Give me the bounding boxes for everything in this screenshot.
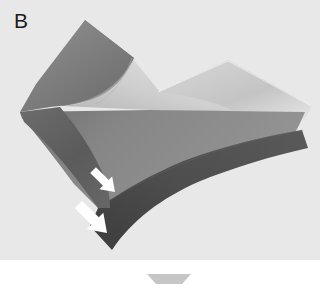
panel-label: B — [14, 10, 29, 31]
annotation-arrow-layer — [0, 0, 320, 260]
scale-marker-container — [0, 260, 320, 293]
scale-marker-trapezoid — [147, 274, 191, 284]
annotation-arrow-lower — [70, 196, 115, 241]
panel-plot-area: B — [0, 0, 320, 260]
figure-panel: B — [0, 0, 320, 293]
footer-strip — [0, 260, 320, 293]
annotation-arrow-upper — [87, 164, 122, 199]
